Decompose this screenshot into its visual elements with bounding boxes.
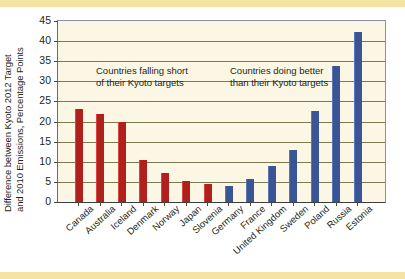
y-tick-mark xyxy=(54,182,58,183)
bar-japan xyxy=(182,181,190,202)
bar-canada xyxy=(75,109,83,202)
annotation-doing-better: Countries doing better than their Kyoto … xyxy=(230,65,328,89)
y-axis-tick-labels: 051015202530354045 xyxy=(31,7,55,212)
y-tick-label: 35 xyxy=(39,54,51,66)
annotation-falling-short: Countries falling short of their Kyoto t… xyxy=(96,65,188,89)
y-tick-mark xyxy=(54,81,58,82)
y-tick-mark xyxy=(54,122,58,123)
annotation-falling-short-line-1: Countries falling short xyxy=(96,65,188,77)
bar-poland xyxy=(311,111,319,202)
y-tick-label: 45 xyxy=(39,14,51,26)
bar-norway xyxy=(161,173,169,202)
bar-chart-figure: Difference between Kyoto 2012 Target and… xyxy=(0,7,405,272)
y-tick-label: 25 xyxy=(39,94,51,106)
y-tick-mark xyxy=(54,41,58,42)
annotation-doing-better-line-2: than their Kyoto targets xyxy=(230,77,328,89)
annotation-doing-better-line-1: Countries doing better xyxy=(230,65,328,77)
y-tick-mark xyxy=(54,21,58,22)
x-axis-tick-labels: CanadaAustraliaIcelandDenmarkNorwayJapan… xyxy=(57,203,405,273)
bar-slovenia xyxy=(204,184,212,202)
y-tick-label: 30 xyxy=(39,74,51,86)
y-tick-label: 0 xyxy=(45,195,51,207)
plot-area: Countries falling short of their Kyoto t… xyxy=(57,20,386,203)
page-top-band xyxy=(0,0,405,7)
y-tick-label: 40 xyxy=(39,34,51,46)
y-axis-title-line-1: Difference between Kyoto 2012 Target xyxy=(2,54,13,212)
y-axis-title-line-2: and 2010 Emissions, Percentage Points xyxy=(14,47,25,212)
bar-australia xyxy=(96,114,104,202)
y-tick-mark xyxy=(54,61,58,62)
y-axis-title: Difference between Kyoto 2012 Target and… xyxy=(0,7,33,212)
bar-estonia xyxy=(354,32,362,202)
bar-united-kingdom xyxy=(268,166,276,202)
bar-france xyxy=(246,179,254,202)
y-tick-mark xyxy=(54,101,58,102)
bar-denmark xyxy=(139,160,147,202)
y-tick-mark xyxy=(54,162,58,163)
annotation-falling-short-line-2: of their Kyoto targets xyxy=(96,77,188,89)
gridline xyxy=(58,61,385,62)
bar-sweden xyxy=(289,150,297,202)
y-tick-label: 20 xyxy=(39,115,51,127)
gridline xyxy=(58,41,385,42)
y-tick-label: 5 xyxy=(45,175,51,187)
y-tick-label: 10 xyxy=(39,155,51,167)
bar-russia xyxy=(332,66,340,202)
page-bottom-band xyxy=(0,272,405,279)
y-tick-label: 15 xyxy=(39,135,51,147)
y-tick-mark xyxy=(54,142,58,143)
bar-germany xyxy=(225,186,233,202)
bar-iceland xyxy=(118,122,126,202)
